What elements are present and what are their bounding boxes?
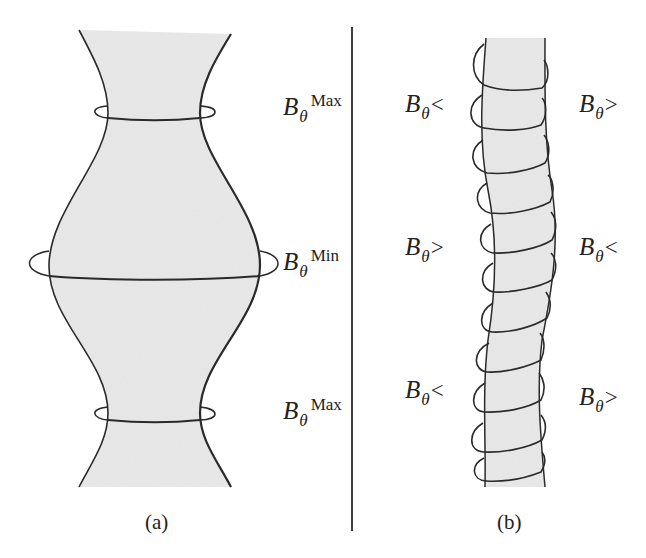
label-relation: > [605,92,618,117]
label-symbol: B [405,233,420,260]
label-subscript: θ [595,104,603,123]
diagram-canvas [0,0,646,558]
label-subscript: θ [421,390,429,409]
label-symbol: B [283,397,298,424]
label-subscript: θ [421,247,429,266]
kink-column [471,38,556,487]
label-symbol: B [405,90,420,117]
label-b-theta-max-top: BθMax [283,93,342,121]
label-symbol: B [579,233,594,260]
label-relation: < [605,235,618,260]
label-subscript: θ [299,107,307,126]
label-subscript: θ [595,397,603,416]
label-right-2: Bθ< [579,233,618,261]
label-symbol: B [579,383,594,410]
sausage-column [29,30,278,487]
label-relation: > [605,385,618,410]
label-b-theta-max-bottom: BθMax [283,397,342,425]
label-subscript: θ [421,104,429,123]
label-superscript: Max [311,91,342,110]
label-subscript: θ [299,411,307,430]
label-symbol: B [579,90,594,117]
label-superscript: Max [311,395,342,414]
label-superscript: Min [311,246,339,265]
column-fill [49,30,260,487]
label-left-3: Bθ< [405,376,444,404]
label-symbol: B [405,376,420,403]
label-b-theta-min: BθMin [283,248,339,276]
caption-a: (a) [145,510,168,535]
label-symbol: B [283,93,298,120]
caption-b: (b) [497,510,522,535]
label-subscript: θ [595,247,603,266]
label-left-2: Bθ> [405,233,444,261]
label-right-1: Bθ> [579,90,618,118]
label-relation: < [431,378,444,403]
label-left-1: Bθ< [405,90,444,118]
label-relation: < [431,92,444,117]
label-relation: > [431,235,444,260]
label-right-3: Bθ> [579,383,618,411]
label-subscript: θ [299,262,307,281]
label-symbol: B [283,248,298,275]
